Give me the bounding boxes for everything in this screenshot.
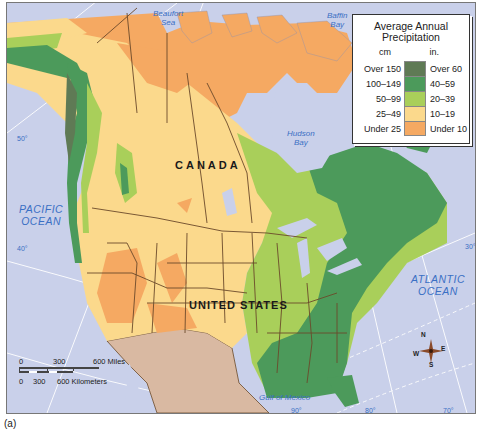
- label-atlantic-ocean: ATLANTICOCEAN: [411, 273, 465, 297]
- label-united-states: UNITED STATES: [189, 299, 288, 311]
- lon-label-70: 70°: [443, 407, 454, 414]
- legend-title: Average Annual Precipitation: [353, 21, 469, 43]
- label-gulf-of-mexico: Gulf of Mexico: [259, 393, 310, 402]
- label-pacific-ocean: PACIFICOCEAN: [19, 203, 63, 227]
- precipitation-legend: Average Annual Precipitation cm in. Over…: [352, 14, 470, 144]
- legend-units: cm in.: [353, 47, 469, 57]
- legend-row-over-150: Over 150 Over 60: [353, 61, 469, 76]
- lat-label-50: 50°: [17, 135, 28, 142]
- compass-rose: N W E S: [419, 331, 449, 371]
- legend-swatch: [404, 76, 426, 91]
- label-beaufort-sea: BeaufortSea: [153, 9, 183, 27]
- legend-row-100-149: 100–149 40–59: [353, 76, 469, 91]
- lon-label-80: 80°: [365, 407, 376, 414]
- compass-star-icon: [419, 339, 443, 363]
- lat-label-30: 30°: [465, 243, 476, 250]
- legend-swatch: [404, 106, 426, 121]
- lat-label-40: 40°: [17, 245, 28, 252]
- scale-bar: 0 300 600 Miles 0 300 600 Kilometers: [19, 357, 139, 397]
- label-hudson-bay: HudsonBay: [287, 129, 315, 147]
- legend-swatch: [404, 61, 426, 76]
- label-canada: CANADA: [175, 159, 241, 171]
- legend-swatch: [404, 121, 426, 136]
- lon-label-90: 90°: [291, 407, 302, 414]
- legend-swatch: [404, 91, 426, 106]
- scale-bar-graphic: [19, 367, 109, 377]
- figure-caption: (a): [4, 418, 16, 429]
- label-baffin-bay: BaffinBay: [327, 11, 347, 29]
- legend-row-under-25: Under 25 Under 10: [353, 121, 469, 136]
- legend-row-25-49: 25–49 10–19: [353, 106, 469, 121]
- legend-row-50-99: 50–99 20–39: [353, 91, 469, 106]
